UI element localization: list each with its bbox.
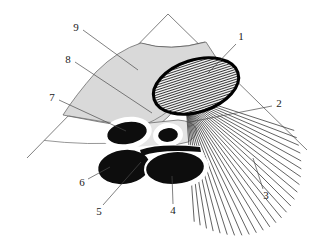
reference-numeral-3: 3 — [263, 189, 269, 201]
reference-numeral-5: 5 — [96, 205, 102, 217]
reference-numeral-7: 7 — [49, 91, 55, 103]
reference-numeral-1: 1 — [238, 30, 244, 42]
reference-numeral-4: 4 — [170, 204, 176, 216]
reference-numeral-6: 6 — [79, 176, 85, 188]
reference-numeral-2: 2 — [276, 97, 282, 109]
patent-figure-svg: 123456789 — [0, 0, 326, 244]
figure-canvas: 123456789 — [0, 0, 326, 244]
reference-numeral-9: 9 — [73, 21, 79, 33]
reference-numeral-8: 8 — [65, 53, 71, 65]
